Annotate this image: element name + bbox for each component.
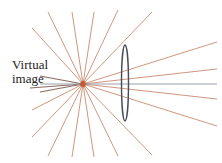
virtual-image-label: Virtual bbox=[12, 58, 48, 72]
virtual-image-point bbox=[80, 81, 86, 87]
light-ray bbox=[83, 69, 217, 84]
light-ray bbox=[83, 84, 217, 99]
diagram-canvas: Virtual image bbox=[0, 0, 222, 163]
light-ray bbox=[32, 84, 83, 110]
light-ray bbox=[32, 84, 83, 137]
virtual-image-label-2: image bbox=[12, 72, 44, 86]
lens-icon bbox=[122, 45, 129, 121]
